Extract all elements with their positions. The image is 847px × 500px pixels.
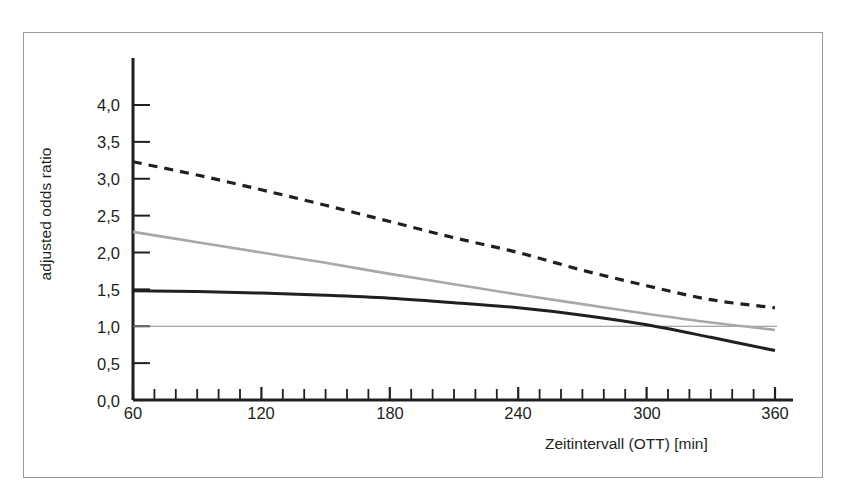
- data-series-group: [133, 162, 777, 351]
- black-lower-curve: [133, 291, 775, 351]
- dashed-upper-curve: [133, 162, 775, 308]
- chart-plot-area: adjusted odds ratio Zeitintervall (OTT) …: [0, 0, 847, 500]
- figure-container: adjusted odds ratio Zeitintervall (OTT) …: [0, 0, 847, 500]
- gray-middle-curve: [133, 232, 775, 330]
- x-axis-minor-ticks: [133, 387, 775, 400]
- chart-svg-canvas: [0, 0, 847, 500]
